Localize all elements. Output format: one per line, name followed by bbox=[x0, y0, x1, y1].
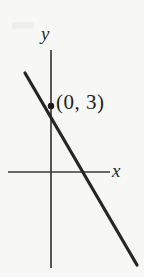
x-axis-label: x bbox=[112, 161, 120, 180]
y-intercept-dot bbox=[48, 103, 54, 109]
point-coordinate-label: (0, 3) bbox=[56, 92, 105, 113]
graph-figure: y x (0, 3) bbox=[0, 0, 144, 277]
y-axis-label: y bbox=[41, 24, 49, 43]
coordinate-plane-svg bbox=[0, 0, 144, 277]
